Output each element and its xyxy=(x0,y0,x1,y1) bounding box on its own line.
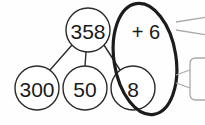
hundreds-label: 300 xyxy=(19,78,54,101)
callout-box-edge xyxy=(190,58,205,100)
connector-whole-to-tens xyxy=(85,52,86,66)
number-bond-diagram: 358 300 50 8 + 6 xyxy=(0,0,205,125)
connector-whole-to-hundreds xyxy=(50,45,72,70)
diagram-canvas: 358 300 50 8 + 6 xyxy=(0,0,205,125)
tens-label: 50 xyxy=(73,78,96,101)
callout-bottom-lower-line xyxy=(176,83,190,88)
ones-label: 8 xyxy=(127,78,139,101)
node-tens[interactable]: 50 xyxy=(63,66,107,110)
node-whole[interactable]: 358 xyxy=(66,8,110,52)
callout-group xyxy=(176,17,205,100)
addend-label: + 6 xyxy=(132,21,160,43)
callout-top-lower-line xyxy=(176,30,205,35)
callout-top-upper-line xyxy=(176,17,205,22)
whole-label: 358 xyxy=(70,20,105,43)
node-hundreds[interactable]: 300 xyxy=(15,66,59,110)
